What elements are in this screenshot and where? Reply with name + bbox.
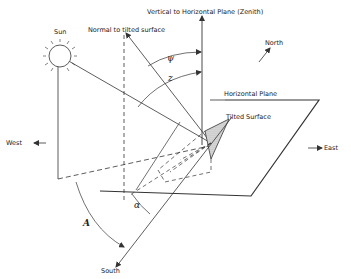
vertical-plane-west [58,59,214,179]
sun-icon [43,39,77,71]
sun-ray [60,56,211,143]
normal-line [126,33,211,143]
alpha-symbol: α [134,200,140,210]
psi-arc [148,52,201,66]
z-symbol: z [167,73,173,83]
tilted-surface-label: Tilted Surface [225,113,271,121]
zenith-label: Vertical to Horizontal Plane (Zenith) [147,8,263,16]
north-label: North [265,39,283,47]
north-arrow-icon [259,48,270,62]
south-label: South [101,267,120,275]
psi-symbol: ψ [167,53,175,63]
normal-label: Normal to tilted surface [88,26,165,34]
azimuth-symbol: A [82,218,90,228]
west-label: West [6,139,22,147]
horizontal-plane-label: Horizontal Plane [224,90,277,98]
solar-geometry-diagram: Vertical to Horizontal Plane (Zenith) Su… [0,0,351,279]
east-label: East [324,144,338,152]
sun-label: Sun [54,28,66,36]
